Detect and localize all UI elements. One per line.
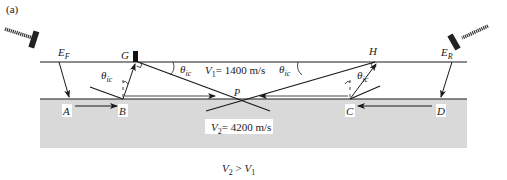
point-a-label: A — [62, 105, 70, 117]
hammer-icon-forward — [5, 29, 39, 48]
point-b-label: B — [119, 105, 126, 117]
point-g-label: G — [121, 49, 129, 61]
layer1-velocity-label: V1= 1400 m/s — [205, 64, 265, 79]
source-forward-label: EF — [57, 46, 70, 61]
panel-label: (a) — [6, 3, 19, 16]
point-d-label: D — [436, 105, 445, 117]
point-c-label: C — [346, 105, 354, 117]
angle-arc-h — [298, 62, 303, 75]
angle-arc-c — [345, 81, 350, 84]
wavefront-b — [90, 87, 123, 99]
ray-er-to-d — [441, 62, 452, 97]
velocity-condition-label: V2 > V1 — [222, 162, 255, 177]
angle-arc-g — [170, 62, 174, 75]
right-angle-mark-g — [137, 62, 143, 68]
point-h-label: H — [368, 45, 378, 57]
angle-arc-b — [123, 81, 128, 84]
hammer-icon-reverse — [447, 26, 488, 50]
source-reverse-label: ER — [440, 46, 453, 61]
ray-ef-to-a — [59, 62, 69, 97]
refraction-diagram: (a) EF ER G H — [0, 0, 507, 180]
theta-label-c: θic — [357, 69, 369, 84]
theta-label-g: θic — [180, 63, 192, 78]
point-p-label: P — [233, 87, 240, 98]
theta-label-b: θic — [101, 69, 113, 84]
receiver-g-marker — [133, 51, 138, 62]
theta-label-h: θic — [279, 63, 291, 78]
